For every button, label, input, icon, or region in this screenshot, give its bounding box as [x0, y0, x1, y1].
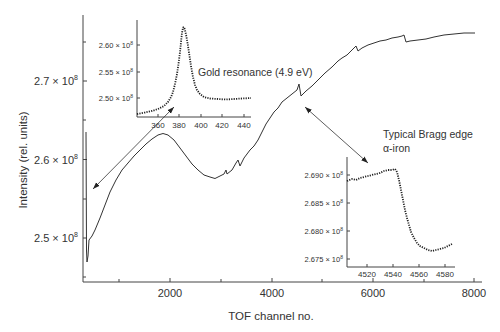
svg-text:4580: 4580	[436, 270, 454, 279]
y-tick-label: 2.7 × 108	[34, 74, 78, 87]
svg-text:360: 360	[151, 121, 165, 130]
x-tick-label: 8000	[462, 287, 486, 299]
x-axis-title: TOF channel no.	[228, 310, 313, 322]
main-x-tick-labels: 2000 4000 6000 8000	[158, 287, 486, 299]
bragg-edge-label-line2: α-iron	[383, 142, 410, 154]
y-tick-label: 2.6 × 108	[34, 153, 78, 166]
svg-text:4520: 4520	[358, 270, 376, 279]
svg-text:440: 440	[237, 121, 251, 130]
gold-resonance-arrow	[93, 107, 174, 189]
x-tick-label: 6000	[361, 287, 385, 299]
x-tick-label: 2000	[158, 287, 182, 299]
svg-text:400: 400	[194, 121, 208, 130]
svg-text:380: 380	[172, 121, 186, 130]
inset-bragg-y-tick-labels: 2.690 × 108 2.685 × 108 2.680 × 108 2.67…	[305, 170, 344, 265]
gold-resonance-label: Gold resonance (4.9 eV)	[198, 66, 312, 78]
svg-text:2.50 × 108: 2.50 × 108	[99, 93, 134, 104]
chart-figure: 2.7 × 108 2.6 × 108 2.5 × 108 2000 4000 …	[0, 0, 500, 332]
bragg-edge-arrow	[305, 107, 368, 163]
svg-text:2.690 × 108: 2.690 × 108	[305, 170, 344, 181]
svg-text:2.60 × 108: 2.60 × 108	[99, 40, 134, 51]
y-axis-title: Intensity (rel. units)	[17, 111, 29, 208]
svg-text:2.55 × 108: 2.55 × 108	[99, 67, 134, 78]
svg-text:4540: 4540	[384, 270, 402, 279]
svg-text:4560: 4560	[410, 270, 428, 279]
y-tick-label: 2.5 × 108	[34, 231, 78, 244]
x-tick-label: 4000	[260, 287, 284, 299]
svg-text:2.685 × 108: 2.685 × 108	[305, 198, 344, 209]
main-y-tick-labels: 2.7 × 108 2.6 × 108 2.5 × 108	[34, 74, 78, 244]
inset-bragg-edge: 2.690 × 108 2.685 × 108 2.680 × 108 2.67…	[305, 128, 474, 279]
svg-text:2.680 × 108: 2.680 × 108	[305, 226, 344, 237]
inset-gold-x-tick-labels: 360 380 400 420 440	[151, 121, 251, 130]
svg-text:2.675 × 108: 2.675 × 108	[305, 254, 344, 265]
chart-canvas: 2.7 × 108 2.6 × 108 2.5 × 108 2000 4000 …	[0, 0, 500, 332]
inset-bragg-x-tick-labels: 4520 4540 4560 4580	[358, 270, 454, 279]
inset-gold-y-tick-labels: 2.60 × 108 2.55 × 108 2.50 × 108	[99, 40, 134, 104]
bragg-edge-label-line1: Typical Bragg edge	[383, 128, 473, 140]
inset-gold-resonance: 2.60 × 108 2.55 × 108 2.50 × 108 360 380…	[99, 18, 313, 130]
svg-text:420: 420	[215, 121, 229, 130]
